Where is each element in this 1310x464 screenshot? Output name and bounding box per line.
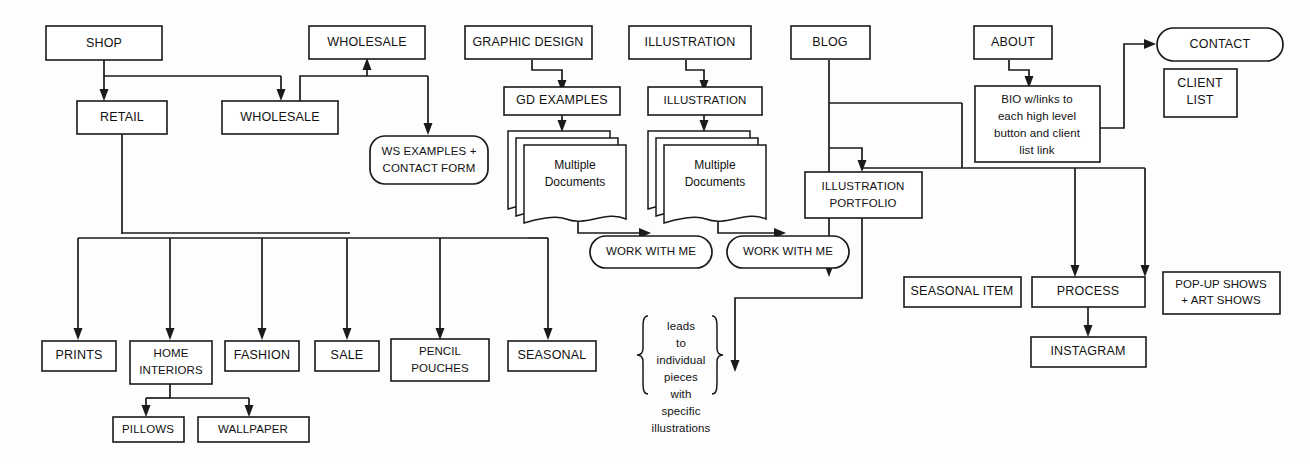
node-client-list-line2: LIST <box>1186 93 1213 107</box>
node-pencil-pouches-line2: POUCHES <box>411 362 469 374</box>
node-process[interactable]: PROCESS <box>1032 277 1145 307</box>
brace-note-line5: with <box>670 388 692 400</box>
node-illustration-portfolio[interactable]: ILLUSTRATION PORTFOLIO <box>805 172 922 218</box>
arrowhead-bus-fashion <box>258 328 267 340</box>
node-multiple-documents-gd[interactable]: Multiple Documents <box>508 131 626 223</box>
node-retail[interactable]: RETAIL <box>77 101 167 134</box>
arrowhead-process-instagram <box>1084 325 1093 337</box>
edge-bio-contact <box>1100 44 1146 128</box>
edge-gd-gdexamples <box>532 60 562 82</box>
brace-note-line3: individual <box>657 354 706 366</box>
node-multiple-documents-illustration[interactable]: Multiple Documents <box>648 131 766 223</box>
arrowhead-bus-homeinteriors <box>166 328 175 340</box>
node-illustration-second-label: ILLUSTRATION <box>664 94 747 106</box>
node-bio-line4: list link <box>1019 144 1055 156</box>
node-contact[interactable]: CONTACT <box>1157 28 1283 61</box>
brace-annotation: leads to individual pieces with specific… <box>652 320 711 434</box>
node-pillows-label: PILLOWS <box>122 423 174 435</box>
node-blog[interactable]: BLOG <box>791 26 870 59</box>
node-seasonal-item-label: SEASONAL ITEM <box>911 284 1014 298</box>
edge-wholesale2-bus <box>300 76 428 101</box>
node-popup-shows-line1: POP-UP SHOWS <box>1175 278 1267 290</box>
node-instagram[interactable]: INSTAGRAM <box>1031 337 1146 367</box>
brace-note-line6: specific <box>661 405 700 417</box>
node-instagram-label: INSTAGRAM <box>1050 344 1125 358</box>
arrowhead-gdexamples-docs <box>558 120 567 132</box>
brace-note-line2: to <box>676 337 686 349</box>
node-multiple-documents-gd-line1: Multiple <box>554 158 596 172</box>
arrowhead-shop-retail <box>100 89 109 101</box>
node-ws-examples-line1: WS EXAMPLES + <box>382 145 477 157</box>
node-home-interiors[interactable]: HOME INTERIORS <box>130 341 212 384</box>
node-gd-examples-label: GD EXAMPLES <box>516 93 608 107</box>
node-wholesale-second-label: WHOLESALE <box>240 110 320 124</box>
node-wallpaper[interactable]: WALLPAPER <box>198 417 309 442</box>
node-bio[interactable]: BIO w/links to each high level button an… <box>975 86 1100 162</box>
node-work-with-me-illustration[interactable]: WORK WITH ME <box>727 236 849 268</box>
node-wholesale-top[interactable]: WHOLESALE <box>309 26 425 59</box>
node-about-label: ABOUT <box>991 35 1035 49</box>
node-work-with-me-illustration-label: WORK WITH ME <box>743 245 833 257</box>
node-work-with-me-gd[interactable]: WORK WITH ME <box>590 236 712 268</box>
node-multiple-documents-gd-line2: Documents <box>545 175 606 189</box>
diagram-canvas: SHOP WHOLESALE GRAPHIC DESIGN ILLUSTRATI… <box>0 0 1310 464</box>
node-prints[interactable]: PRINTS <box>42 341 116 371</box>
node-about[interactable]: ABOUT <box>974 26 1052 59</box>
node-blog-label: BLOG <box>812 35 848 49</box>
edge-homeinteriors-bus <box>170 384 249 398</box>
arrowhead-ws-examples <box>424 123 433 135</box>
node-seasonal-label: SEASONAL <box>518 348 587 362</box>
node-sale-label: SALE <box>331 348 364 362</box>
node-ws-examples[interactable]: WS EXAMPLES + CONTACT FORM <box>370 136 488 184</box>
arrowhead-bus-prints <box>74 328 83 340</box>
node-seasonal-item[interactable]: SEASONAL ITEM <box>904 277 1021 307</box>
sitemap-flowchart: SHOP WHOLESALE GRAPHIC DESIGN ILLUSTRATI… <box>0 0 1310 464</box>
arrowhead-portfolio-brace <box>731 360 740 372</box>
edge-blog-portfolio <box>829 148 862 162</box>
edge-ill-ill2 <box>686 60 704 82</box>
node-fashion[interactable]: FASHION <box>225 341 299 371</box>
node-process-label: PROCESS <box>1057 284 1120 298</box>
node-illustration-portfolio-line1: ILLUSTRATION <box>822 180 905 192</box>
node-wallpaper-label: WALLPAPER <box>218 423 288 435</box>
edge-gddocs-workwithme <box>578 222 641 233</box>
node-prints-label: PRINTS <box>55 348 102 362</box>
node-fashion-label: FASHION <box>234 348 290 362</box>
arrowhead-bus-seasonal <box>544 328 553 340</box>
brace-note-line1: leads <box>667 320 695 332</box>
node-wholesale-second[interactable]: WHOLESALE <box>222 101 338 134</box>
arrowhead-blog-portfolio <box>858 160 867 172</box>
node-illustration-top[interactable]: ILLUSTRATION <box>629 26 751 59</box>
node-graphic-design[interactable]: GRAPHIC DESIGN <box>465 26 592 59</box>
node-sale[interactable]: SALE <box>315 341 379 371</box>
node-multiple-documents-illustration-line2: Documents <box>685 175 746 189</box>
node-pencil-pouches[interactable]: PENCIL POUCHES <box>391 339 489 381</box>
node-seasonal[interactable]: SEASONAL <box>508 341 596 371</box>
node-bio-line1: BIO w/links to <box>1001 93 1073 105</box>
arrowhead-shop-wholesale2 <box>277 89 286 101</box>
node-contact-label: CONTACT <box>1190 37 1251 51</box>
node-pencil-pouches-line1: PENCIL <box>419 345 462 357</box>
arrowhead-bus-popup <box>1141 265 1150 277</box>
node-illustration-top-label: ILLUSTRATION <box>644 35 735 49</box>
arrowhead-homeinteriors-wallpaper <box>245 405 254 417</box>
node-home-interiors-line1: HOME <box>154 347 189 359</box>
left-brace <box>637 316 648 394</box>
node-pillows[interactable]: PILLOWS <box>113 417 184 442</box>
node-gd-examples[interactable]: GD EXAMPLES <box>504 87 620 115</box>
node-bio-line3: button and client <box>994 127 1081 139</box>
node-bio-line2: each high level <box>998 110 1076 122</box>
arrowhead-homeinteriors-pillows <box>142 405 151 417</box>
node-retail-label: RETAIL <box>100 110 144 124</box>
right-brace <box>712 316 723 394</box>
brace-note-line4: pieces <box>664 371 698 383</box>
node-shop[interactable]: SHOP <box>46 26 162 60</box>
node-client-list[interactable]: CLIENT LIST <box>1164 69 1237 117</box>
node-illustration-second[interactable]: ILLUSTRATION <box>648 87 762 115</box>
node-ws-examples-line2: CONTACT FORM <box>383 162 476 174</box>
node-multiple-documents-illustration-line1: Multiple <box>694 158 736 172</box>
arrowhead-bus-sale <box>343 328 352 340</box>
node-popup-shows[interactable]: POP-UP SHOWS + ART SHOWS <box>1163 272 1280 314</box>
node-wholesale-top-label: WHOLESALE <box>327 35 407 49</box>
node-illustration-portfolio-line2: PORTFOLIO <box>829 197 896 209</box>
